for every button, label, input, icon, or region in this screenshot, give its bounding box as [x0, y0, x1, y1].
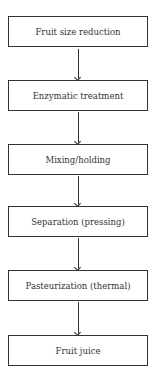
step-label: Mixing/holding [45, 155, 110, 165]
step-enzymatic-treatment: Enzymatic treatment [8, 80, 148, 111]
step-mixing-holding: Mixing/holding [8, 144, 148, 175]
step-pasteurization-thermal: Pasteurization (thermal) [8, 270, 148, 301]
step-label: Fruit size reduction [35, 27, 120, 37]
arrow-down-icon [78, 238, 79, 270]
arrow-down-icon [78, 112, 79, 144]
step-label: Enzymatic treatment [33, 91, 124, 101]
step-label: Separation (pressing) [31, 217, 124, 227]
arrow-down-icon [78, 49, 79, 80]
arrow-down-icon [78, 176, 79, 206]
step-separation-pressing: Separation (pressing) [8, 206, 148, 237]
step-label: Fruit juice [56, 346, 101, 356]
step-fruit-juice: Fruit juice [8, 335, 148, 366]
step-fruit-size-reduction: Fruit size reduction [8, 16, 148, 47]
arrow-down-icon [78, 302, 79, 335]
step-label: Pasteurization (thermal) [26, 281, 131, 291]
